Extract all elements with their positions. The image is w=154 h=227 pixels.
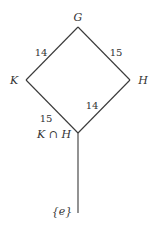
edge-k-kh bbox=[26, 80, 78, 133]
node-label-g: G bbox=[74, 11, 83, 24]
edge-label-g-h: 15 bbox=[110, 47, 123, 58]
edge-label-g-k: 14 bbox=[35, 47, 48, 58]
node-label-identity: {e} bbox=[52, 205, 73, 218]
edge-label-k-kh: 15 bbox=[40, 113, 53, 124]
node-label-k: K bbox=[9, 74, 19, 87]
edge-label-h-kh: 14 bbox=[86, 100, 99, 111]
node-label-h: H bbox=[137, 74, 148, 87]
subgroup-lattice-diagram: G K H K ∩ H {e} 14 15 15 14 bbox=[0, 0, 154, 227]
node-label-k-intersect-h: K ∩ H bbox=[36, 128, 71, 141]
